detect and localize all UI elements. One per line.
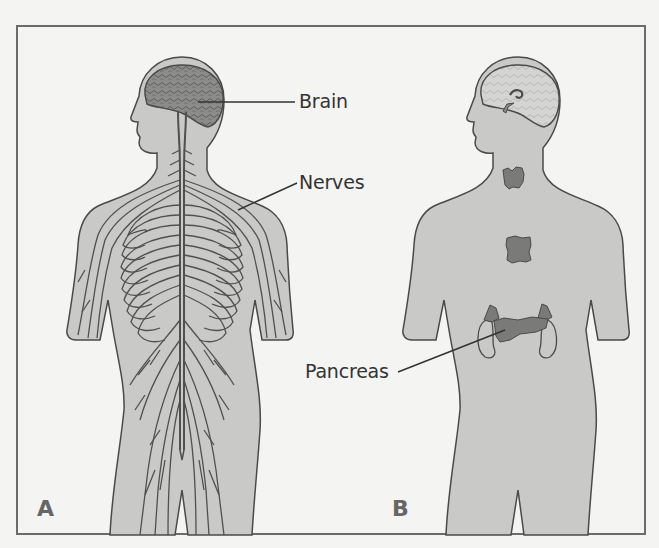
- anatomy-illustration: [0, 0, 659, 548]
- panel-letter-b: B: [392, 498, 409, 520]
- label-brain: Brain: [299, 92, 348, 111]
- label-nerves: Nerves: [299, 173, 364, 192]
- figure-b-body: [403, 57, 629, 535]
- thymus-gland: [506, 236, 531, 263]
- label-pancreas: Pancreas: [305, 362, 389, 381]
- thyroid-gland: [503, 167, 524, 189]
- panel-letter-a: A: [37, 498, 54, 520]
- nerves-leader-line: [238, 183, 297, 210]
